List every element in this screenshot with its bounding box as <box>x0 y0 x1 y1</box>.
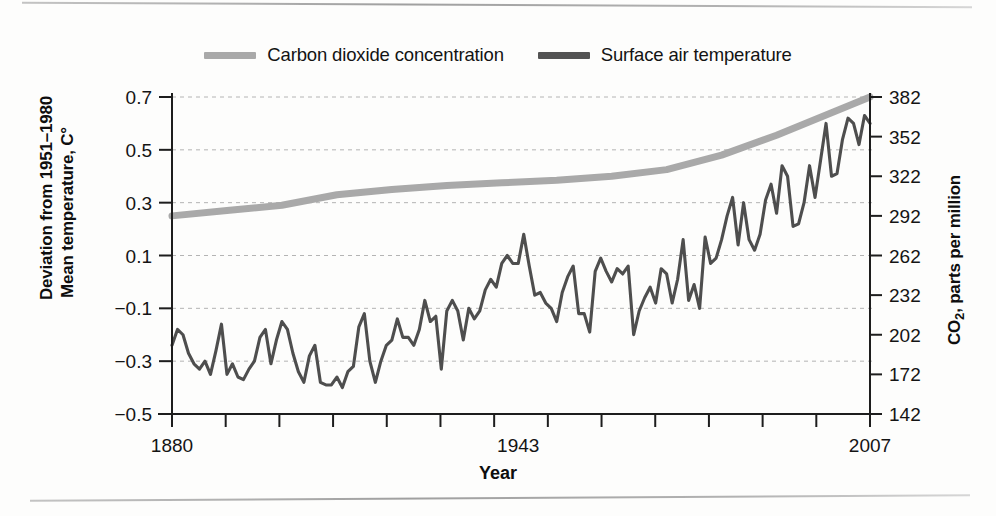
data-series-layer <box>172 97 870 388</box>
x-axis-tick-label: 2007 <box>849 435 891 456</box>
y-axis-tick-label-left: 0.1 <box>126 246 152 267</box>
y-axis-tick-label-left: 0.3 <box>126 193 152 214</box>
y-axis-tick-label-left: 0.5 <box>126 140 152 161</box>
y-axis-tick-label-left: −0.3 <box>114 351 152 372</box>
series-line-temperature <box>172 115 870 387</box>
figure-page: Carbon dioxide concentration Surface air… <box>0 0 996 516</box>
y-axis-tick-label-right: 322 <box>889 166 921 187</box>
y-axis-tick-label-right: 292 <box>889 206 921 227</box>
right-axis-title-rest: , parts per million <box>945 175 964 313</box>
y-axis-tick-label-right: 142 <box>889 404 921 425</box>
right-axis-title: CO2, parts per million <box>945 175 967 345</box>
y-axis-tick-label-right: 232 <box>889 285 921 306</box>
x-axis-title: Year <box>479 463 517 483</box>
x-axis-tick-label: 1880 <box>151 435 193 456</box>
y-axis-tick-label-right: 202 <box>889 325 921 346</box>
left-axis-title-line2: Mean temperature, C° <box>58 127 77 298</box>
axis-labels-layer: 0.70.50.30.1−0.1−0.3−0.53823523222922622… <box>114 87 920 456</box>
y-axis-tick-label-left: −0.5 <box>114 404 152 425</box>
left-axis-title-line1: Deviation from 1951–1980 <box>37 96 56 300</box>
y-axis-tick-label-right: 262 <box>889 246 921 267</box>
y-axis-tick-label-right: 352 <box>889 127 921 148</box>
right-axis-title-main: CO <box>945 320 964 345</box>
x-axis-tick-label: 1943 <box>497 435 539 456</box>
right-axis-title-sub: 2 <box>952 313 967 320</box>
chart-canvas: 0.70.50.30.1−0.1−0.3−0.53823523222922622… <box>0 0 996 516</box>
y-axis-tick-label-right: 172 <box>889 364 921 385</box>
y-axis-tick-label-left: 0.7 <box>126 87 152 108</box>
y-axis-tick-label-left: −0.1 <box>114 298 152 319</box>
y-axis-tick-label-right: 382 <box>889 87 921 108</box>
